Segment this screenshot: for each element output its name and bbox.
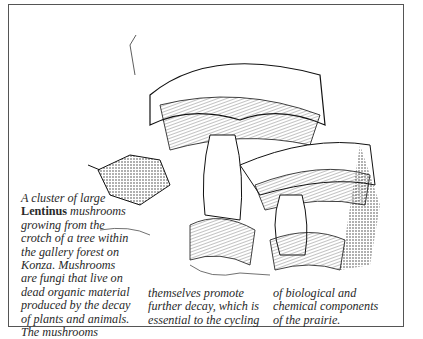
caption-line: dead organic material [21,286,149,299]
caption-line: essential to the cycling [148,314,268,327]
caption-line: The mushrooms [21,326,149,339]
caption-line: of plants and animals. [21,313,149,326]
caption-column-2: themselves promote further decay, which … [148,287,268,327]
caption-line: themselves promote [148,287,268,300]
caption-line: further decay, which is [148,300,268,313]
caption-line: crotch of a tree within [21,232,149,245]
caption-text: mushrooms [67,204,126,218]
caption-line: Konza. Mushrooms [21,259,149,272]
genus-name: Lentinus [21,204,67,218]
caption-line: A cluster of large [21,192,149,205]
caption-line: chemical components [273,300,403,313]
caption-line: produced by the decay [21,299,149,312]
caption-line: growing from the [21,219,149,232]
caption-line: of biological and [273,287,403,300]
caption-column-3: of biological and chemical components of… [273,287,403,327]
caption-line: are fungi that live on [21,272,149,285]
caption-line: of the prairie. [273,314,403,327]
caption-line: Lentinus mushrooms [21,205,149,218]
caption-column-1: A cluster of large Lentinus mushrooms gr… [21,192,149,339]
caption-line: the gallery forest on [21,246,149,259]
